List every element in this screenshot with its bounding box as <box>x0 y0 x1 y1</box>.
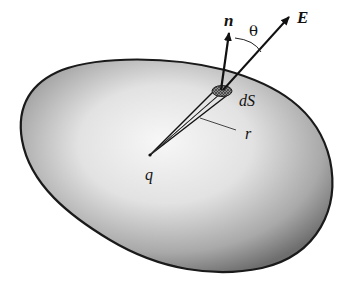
charge-point <box>148 153 151 156</box>
label-normal: n <box>224 11 233 30</box>
closed-surface <box>21 60 333 273</box>
label-charge: q <box>145 166 153 184</box>
label-angle: θ <box>249 22 258 40</box>
label-surface-element: dS <box>239 92 255 109</box>
angle-arc <box>235 38 261 52</box>
gauss-law-diagram: n θ E dS r q <box>0 0 356 296</box>
label-radius: r <box>245 125 252 142</box>
label-field: E <box>296 8 308 27</box>
